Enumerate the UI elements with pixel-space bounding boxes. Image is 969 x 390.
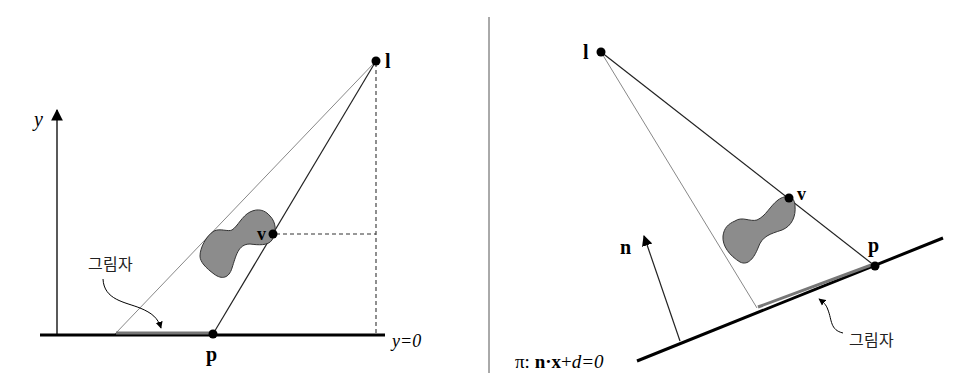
projected-point-label: p <box>206 343 217 366</box>
vertex-point <box>785 194 794 203</box>
projected-point <box>871 262 880 271</box>
plane-d: d <box>572 351 582 372</box>
light-label: l <box>385 50 391 72</box>
left-panel: y 그림자 l v p y=0 <box>32 50 421 366</box>
y-axis-label: y <box>32 108 43 131</box>
light-ray-outer <box>115 61 376 334</box>
shadow-callout-arrow <box>103 279 161 328</box>
planar-shadow-diagram: y 그림자 l v p y=0 n <box>0 0 969 390</box>
occluder-object <box>723 197 795 263</box>
plane-plus: + <box>561 351 572 372</box>
vertex-label: v <box>797 184 806 204</box>
normal-label: n <box>620 236 631 258</box>
light-ray-through-vertex <box>213 61 376 334</box>
right-panel: n 그림자 l v p π: n·x+d=0 <box>515 41 943 372</box>
plane-n: n <box>535 351 546 372</box>
light-ray-outer <box>601 52 757 308</box>
light-label: l <box>583 41 589 63</box>
plane-equation-label: π: n·x+d=0 <box>515 351 604 372</box>
plane-eq-zero: =0 <box>581 351 604 372</box>
ground-equation-label: y=0 <box>390 331 421 351</box>
shadow-label: 그림자 <box>849 331 894 350</box>
plane-x: x <box>552 351 562 372</box>
plane-pi: π: <box>515 351 535 372</box>
light-point <box>597 48 606 57</box>
normal-vector <box>644 236 680 341</box>
vertex-label: v <box>257 224 266 244</box>
shadow-callout-arrow <box>819 299 843 333</box>
plane-line <box>637 238 943 361</box>
vertex-point <box>269 230 278 239</box>
shadow-segment <box>758 264 874 307</box>
light-point <box>372 57 381 66</box>
projected-point <box>209 330 218 339</box>
projected-point-label: p <box>868 234 879 257</box>
shadow-label: 그림자 <box>88 255 133 274</box>
